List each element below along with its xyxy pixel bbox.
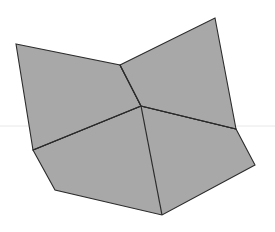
folded-planes-svg [0,0,275,232]
figure-canvas [0,0,275,232]
